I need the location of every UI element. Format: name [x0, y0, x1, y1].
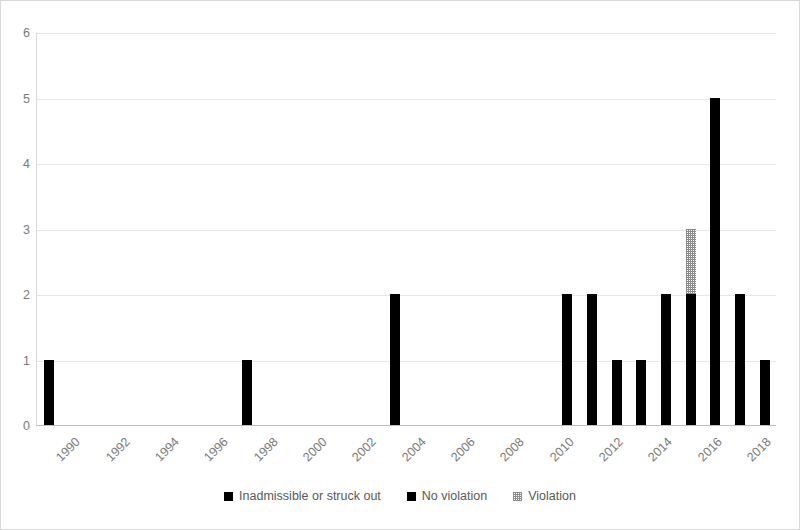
x-axis-tick-label-2004: 2004 — [399, 435, 429, 465]
plot-area: 0123456 — [36, 33, 776, 426]
legend-label: No violation — [422, 489, 487, 503]
bar-segment-inadmissible-or-struck-out — [760, 360, 770, 426]
x-axis-tick-label-2018: 2018 — [744, 435, 774, 465]
x-axis-tick-label-1996: 1996 — [202, 435, 232, 465]
legend-label: Inadmissible or struck out — [239, 489, 381, 503]
y-axis-tick-label: 6 — [23, 26, 30, 40]
bar-2012[interactable] — [587, 294, 597, 425]
y-axis-tick-label: 5 — [23, 92, 30, 106]
chart-frame: 0123456 19901992199419961998200020022004… — [0, 0, 800, 530]
bar-segment-inadmissible-or-struck-out — [735, 294, 745, 425]
x-axis-tick-label-2014: 2014 — [646, 435, 676, 465]
bar-segment-inadmissible-or-struck-out — [661, 294, 671, 425]
bar-2018[interactable] — [735, 294, 745, 425]
gridline-5 — [37, 99, 776, 100]
bar-2014[interactable] — [636, 360, 646, 426]
gridline-6 — [37, 33, 776, 34]
bar-segment-inadmissible-or-struck-out — [390, 294, 400, 425]
x-axis-tick-label-2002: 2002 — [350, 435, 380, 465]
x-axis-tick-label-1992: 1992 — [103, 435, 133, 465]
x-axis-tick-label-2006: 2006 — [448, 435, 478, 465]
bar-2016[interactable] — [686, 229, 696, 426]
legend-label: Violation — [528, 489, 576, 503]
bar-segment-inadmissible-or-struck-out — [612, 360, 622, 426]
x-axis-tick-label-2012: 2012 — [596, 435, 626, 465]
y-axis-tick-label: 1 — [23, 354, 30, 368]
bar-segment-inadmissible-or-struck-out — [587, 294, 597, 425]
x-axis-tick-group: 1990199219941996199820002002200420062008… — [36, 426, 776, 481]
gridline-3 — [37, 230, 776, 231]
bar-segment-violation — [686, 229, 696, 295]
bar-2017[interactable] — [710, 98, 720, 426]
bar-2015[interactable] — [661, 294, 671, 425]
bar-segment-inadmissible-or-struck-out — [636, 360, 646, 426]
bar-2019[interactable] — [760, 360, 770, 426]
x-axis-tick-label-1990: 1990 — [54, 435, 84, 465]
bar-2013[interactable] — [612, 360, 622, 426]
legend-item-inadmissible-or-struck-out[interactable]: Inadmissible or struck out — [224, 489, 381, 503]
legend-swatch-icon — [513, 492, 522, 501]
bar-segment-inadmissible-or-struck-out — [710, 98, 720, 426]
x-axis-tick-label-1998: 1998 — [251, 435, 281, 465]
bar-1998[interactable] — [242, 360, 252, 426]
y-axis-tick-label: 4 — [23, 157, 30, 171]
x-axis-tick-label-2010: 2010 — [547, 435, 577, 465]
legend-item-violation[interactable]: Violation — [513, 489, 576, 503]
bar-2011[interactable] — [562, 294, 572, 425]
legend-swatch-icon — [407, 492, 416, 501]
legend-item-no-violation[interactable]: No violation — [407, 489, 487, 503]
y-axis-tick-label: 3 — [23, 223, 30, 237]
bar-segment-inadmissible-or-struck-out — [562, 294, 572, 425]
y-axis-tick-label: 2 — [23, 288, 30, 302]
bar-segment-inadmissible-or-struck-out — [44, 360, 54, 426]
x-axis-tick-label-2000: 2000 — [300, 435, 330, 465]
legend-swatch-icon — [224, 492, 233, 501]
bar-1990[interactable] — [44, 360, 54, 426]
bar-segment-inadmissible-or-struck-out — [686, 294, 696, 425]
chart-legend: Inadmissible or struck outNo violationVi… — [1, 489, 799, 503]
x-axis-tick-label-1994: 1994 — [152, 435, 182, 465]
bar-2004[interactable] — [390, 294, 400, 425]
bar-segment-inadmissible-or-struck-out — [242, 360, 252, 426]
x-axis-tick-label-2008: 2008 — [498, 435, 528, 465]
x-axis-tick-label-2016: 2016 — [695, 435, 725, 465]
gridline-4 — [37, 164, 776, 165]
y-axis-tick-label: 0 — [23, 419, 30, 433]
